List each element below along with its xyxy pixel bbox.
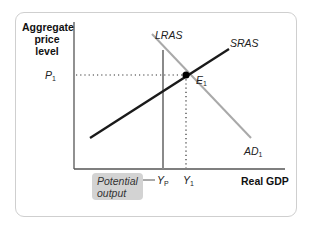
callout-line: Potential xyxy=(97,175,143,187)
ad1-label: AD1 xyxy=(244,145,263,161)
p1-label: P1 xyxy=(45,69,56,85)
y-axis-label-line: Aggregate xyxy=(22,21,72,33)
y-axis-label-line: level xyxy=(22,45,72,57)
yp-tick-label: YP xyxy=(157,174,169,190)
x-axis-label: Real GDP xyxy=(241,175,289,187)
y-axis-label-line: price xyxy=(22,33,72,45)
y1-tick-label: Y1 xyxy=(183,174,194,190)
y-axis-label: Aggregate price level xyxy=(22,21,72,57)
equilibrium-point xyxy=(182,71,189,78)
potential-output-callout: Potential output xyxy=(92,173,143,200)
e1-label: E1 xyxy=(196,74,207,90)
lras-label: LRAS xyxy=(155,29,182,41)
callout-line: output xyxy=(97,187,143,199)
sras-label: SRAS xyxy=(230,37,259,49)
